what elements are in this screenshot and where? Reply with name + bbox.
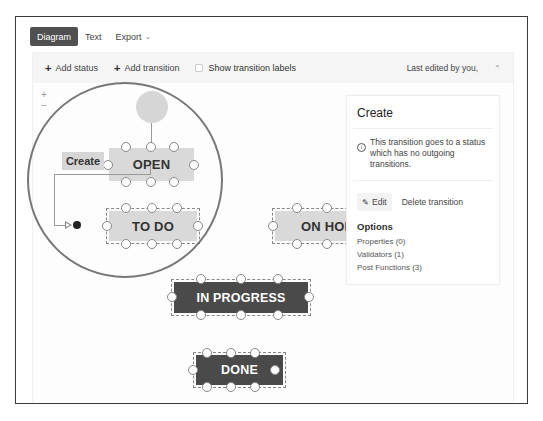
status-open-label: OPEN: [133, 157, 171, 172]
delete-transition-button[interactable]: Delete transition: [402, 197, 463, 207]
connection-handle[interactable]: [273, 310, 283, 320]
transition-line: [54, 174, 55, 225]
transition-line: [150, 165, 151, 175]
tab-text-label: Text: [85, 32, 102, 42]
double-chevron-up-icon[interactable]: ⌃: [494, 64, 501, 73]
checkbox-box[interactable]: [195, 64, 203, 72]
connection-handle[interactable]: [202, 348, 212, 358]
view-tabs: Diagram Text Export⌄: [30, 27, 158, 46]
status-in-progress-label: IN PROGRESS: [196, 291, 285, 305]
connection-handle[interactable]: [236, 274, 246, 284]
add-transition-button[interactable]: + Add transition: [114, 62, 179, 74]
zoom-controls: + −: [41, 89, 47, 111]
tab-export-label: Export: [116, 32, 142, 42]
option-validators-link[interactable]: Validators (1): [357, 250, 489, 259]
zoom-out-button[interactable]: −: [41, 100, 47, 111]
tab-diagram[interactable]: Diagram: [30, 27, 78, 46]
chevron-down-icon: ⌄: [145, 33, 151, 41]
connection-handle[interactable]: [172, 239, 182, 249]
connection-handle[interactable]: [236, 310, 246, 320]
plus-icon: +: [114, 62, 120, 74]
tab-diagram-label: Diagram: [37, 32, 71, 42]
zoom-in-button[interactable]: +: [41, 89, 47, 100]
connection-handle[interactable]: [102, 221, 112, 231]
connection-handle[interactable]: [189, 160, 199, 170]
plus-icon: +: [45, 62, 51, 74]
status-in-progress[interactable]: IN PROGRESS: [174, 282, 308, 313]
connection-handle[interactable]: [250, 382, 260, 392]
status-to-do[interactable]: TO DO: [109, 211, 197, 241]
status-on-hold[interactable]: ON HOLD: [275, 211, 355, 241]
arrow-head-fill: [66, 223, 70, 227]
connection-handle[interactable]: [270, 365, 280, 375]
panel-title: Create: [357, 106, 489, 120]
connection-handle[interactable]: [169, 177, 179, 187]
status-to-do-label: TO DO: [132, 219, 174, 234]
option-properties-link[interactable]: Properties (0): [357, 237, 489, 246]
connection-handle[interactable]: [304, 292, 314, 302]
toolbar-right: Last edited by you, ⌃: [407, 63, 501, 73]
panel-actions: ✎ Edit Delete transition: [357, 181, 489, 217]
connection-handle[interactable]: [268, 221, 278, 231]
add-status-label: Add status: [55, 63, 98, 73]
connection-handle[interactable]: [322, 239, 332, 249]
editor-toolbar: + Add status + Add transition Show trans…: [33, 53, 513, 83]
transition-endpoint[interactable]: [73, 221, 81, 229]
edit-label: Edit: [372, 197, 387, 207]
pencil-icon: ✎: [362, 198, 369, 207]
option-post-functions-link[interactable]: Post Functions (3): [357, 263, 489, 272]
connection-handle[interactable]: [147, 203, 157, 213]
connection-handle[interactable]: [292, 239, 302, 249]
transition-label-text: Create: [66, 155, 100, 167]
connection-handle[interactable]: [322, 203, 332, 213]
show-transition-labels-checkbox[interactable]: Show transition labels: [195, 63, 296, 73]
connection-handle[interactable]: [172, 203, 182, 213]
connection-handle[interactable]: [292, 203, 302, 213]
info-text: This transition goes to a status which h…: [370, 137, 489, 170]
connection-handle[interactable]: [250, 348, 260, 358]
connection-handle[interactable]: [188, 365, 198, 375]
info-message: i This transition goes to a status which…: [357, 129, 489, 180]
connection-handle[interactable]: [193, 221, 203, 231]
add-status-button[interactable]: + Add status: [45, 62, 98, 74]
transition-details-panel: Create i This transition goes to a statu…: [346, 95, 500, 285]
connection-handle[interactable]: [273, 274, 283, 284]
tab-text[interactable]: Text: [78, 27, 109, 46]
connection-handle[interactable]: [121, 142, 131, 152]
connection-handle[interactable]: [146, 177, 156, 187]
connection-handle[interactable]: [169, 142, 179, 152]
connection-handle[interactable]: [202, 382, 212, 392]
info-icon: i: [357, 143, 366, 152]
add-transition-label: Add transition: [124, 63, 179, 73]
options-heading: Options: [357, 221, 489, 232]
transition-line: [55, 174, 151, 175]
connection-handle[interactable]: [167, 292, 177, 302]
connection-handle[interactable]: [196, 310, 206, 320]
transition-label-create[interactable]: Create: [62, 152, 104, 170]
last-edited-text: Last edited by you,: [407, 63, 478, 73]
connection-handle[interactable]: [121, 203, 131, 213]
connection-handle[interactable]: [103, 160, 113, 170]
connection-handle[interactable]: [121, 239, 131, 249]
show-transition-labels-label: Show transition labels: [208, 63, 296, 73]
status-done-label: DONE: [221, 363, 258, 377]
connection-handle[interactable]: [121, 177, 131, 187]
edit-button[interactable]: ✎ Edit: [357, 193, 392, 211]
connection-handle[interactable]: [147, 239, 157, 249]
connection-handle[interactable]: [196, 274, 206, 284]
connection-handle[interactable]: [226, 348, 236, 358]
initial-state-circle[interactable]: [136, 91, 168, 123]
tab-export[interactable]: Export⌄: [109, 27, 158, 46]
connection-handle[interactable]: [226, 382, 236, 392]
connection-handle[interactable]: [146, 142, 156, 152]
